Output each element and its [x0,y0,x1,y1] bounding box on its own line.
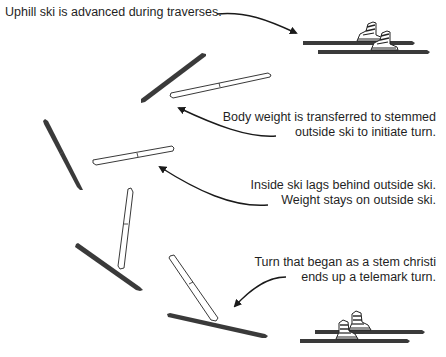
unweighted-ski [93,146,174,165]
inside-ski-lag-stage-skis [75,188,143,291]
uphill-ski-top [303,41,415,45]
stem-stage-skis [141,53,271,103]
caption-line: Uphill ski is advanced during traverses. [5,5,222,20]
unweighted-ski [118,188,133,269]
caption-uphill-ski: Uphill ski is advanced during traverses. [5,5,222,20]
downhill-ski-top [318,50,430,54]
ski-bottom-lower [300,339,410,343]
caption-line: Body weight is transferred to stemmed [223,110,436,125]
caption-body-weight: Body weight is transferred to stemmed ou… [223,110,436,139]
weighted-ski [43,119,83,190]
ski-boot-icon [357,22,384,41]
weight-transfer-stage-skis [43,119,174,190]
telemark-stage-skis [167,255,268,338]
caption-inside-ski: Inside ski lags behind outside ski. Weig… [250,178,436,207]
unweighted-ski [170,73,271,98]
caption-line: Weight stays on outside ski. [250,193,436,208]
caption-line: Turn that began as a stem christi [254,255,436,270]
arrow-uphill-to-top-skis [217,13,296,33]
ski-bottom-upper [315,330,425,334]
caption-line: outside ski to initiate turn. [223,125,436,140]
caption-telemark-turn: Turn that began as a stem christi ends u… [254,255,436,284]
traverse-ski-pair-bottom [300,311,425,343]
caption-line: ends up a telemark turn. [254,270,436,285]
ski-boot-icon [349,311,371,330]
caption-line: Inside ski lags behind outside ski. [250,178,436,193]
traverse-ski-pair-top [303,22,430,54]
unweighted-ski [169,255,218,321]
weighted-ski [75,243,143,291]
